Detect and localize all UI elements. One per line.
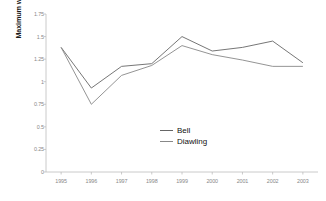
data-series-lines <box>61 37 303 105</box>
x-tick-label: 2001 <box>227 178 257 185</box>
plot-area <box>0 0 326 201</box>
x-axis-tick-labels: 199519961997199819992000200120022003 <box>0 178 326 188</box>
legend-item-bell: Bell <box>160 125 207 136</box>
legend-label-diawling: Diawling <box>177 136 207 147</box>
legend-label-bell: Bell <box>177 125 190 136</box>
legend-item-diawling: Diawling <box>160 136 207 147</box>
series-line-diawling <box>61 46 303 105</box>
chart-legend: Bell Diawling <box>160 125 207 147</box>
x-tick-label: 1997 <box>107 178 137 185</box>
x-tick-label: 1996 <box>76 178 106 185</box>
legend-line-icon-diawling <box>160 141 173 142</box>
series-line-bell <box>61 37 303 88</box>
x-tick-label: 1998 <box>137 178 167 185</box>
x-tick-label: 2002 <box>258 178 288 185</box>
x-tick-label: 1999 <box>167 178 197 185</box>
legend-line-icon-bell <box>160 130 173 131</box>
chart-container: Maximum water level (m IGN) 00.250.50.75… <box>0 0 326 201</box>
axis-lines <box>46 14 318 172</box>
x-tick-label: 1995 <box>46 178 76 185</box>
x-tick-label: 2000 <box>197 178 227 185</box>
x-tick-label: 2003 <box>288 178 318 185</box>
